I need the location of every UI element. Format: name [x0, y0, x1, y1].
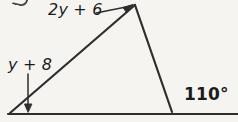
exterior-angle-label: 110°	[184, 86, 229, 103]
geometry-figure: 2y + 6 y + 8 110°	[0, 0, 238, 122]
side-label-top: 2y + 6	[48, 2, 103, 18]
right-slanted-side	[135, 5, 172, 112]
leader-arrowhead-bottom-left-vertex	[25, 104, 32, 112]
side-label-left: y + 8	[8, 57, 52, 73]
